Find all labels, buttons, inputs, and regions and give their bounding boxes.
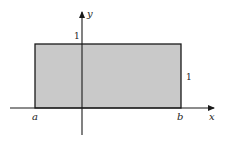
diagram-canvas: y x 1 1 a b — [0, 0, 228, 149]
right-bound-label: b — [177, 111, 183, 122]
height-label-y-axis: 1 — [74, 31, 80, 41]
shaded-rectangle — [35, 44, 181, 108]
height-label-right-side: 1 — [186, 72, 192, 82]
left-bound-label: a — [32, 111, 38, 122]
x-axis-label: x — [209, 111, 215, 122]
y-axis-label: y — [86, 8, 93, 19]
